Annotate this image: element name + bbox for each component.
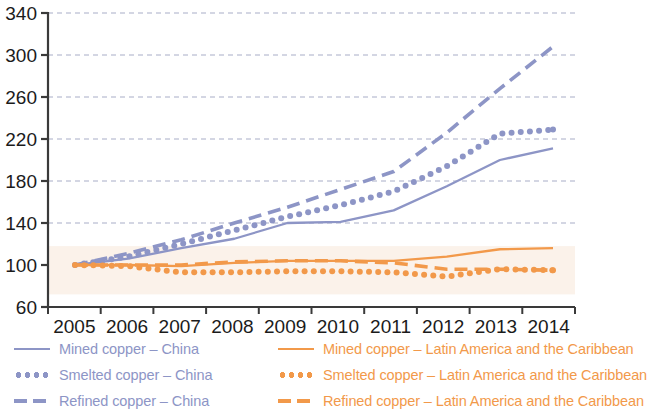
chart-plot-area: 60100140180220260300340 2005200620072008… bbox=[0, 0, 582, 334]
legend-item-refined-latam[interactable]: Refined copper – Latin America and the C… bbox=[268, 388, 582, 414]
legend-item-mined-latam[interactable]: Mined copper – Latin America and the Car… bbox=[268, 336, 582, 362]
x-tick-label: 2007 bbox=[159, 316, 201, 334]
legend-label: Smelted copper – China bbox=[59, 367, 212, 383]
x-tick-label: 2013 bbox=[475, 316, 517, 334]
x-tick-label: 2011 bbox=[370, 316, 411, 334]
y-tick-label: 260 bbox=[5, 87, 37, 108]
legend-item-mined-china[interactable]: Mined copper – China bbox=[0, 336, 268, 362]
legend-swatch-solid-icon bbox=[278, 342, 314, 356]
series-dashed bbox=[75, 47, 553, 265]
legend-label: Smelted copper – Latin America and the C… bbox=[323, 367, 647, 383]
legend-item-refined-china[interactable]: Refined copper – China bbox=[0, 388, 268, 414]
legend-label: Refined copper – China bbox=[59, 393, 209, 409]
legend-item-smelted-china[interactable]: Smelted copper – China bbox=[0, 362, 268, 388]
y-tick-label: 300 bbox=[5, 45, 37, 66]
legend-swatch-dotted-icon bbox=[14, 368, 50, 382]
legend-swatch-solid-icon bbox=[14, 342, 50, 356]
data-series bbox=[72, 47, 556, 280]
legend-item-smelted-latam[interactable]: Smelted copper – Latin America and the C… bbox=[268, 362, 582, 388]
legend-label: Refined copper – Latin America and the C… bbox=[323, 393, 644, 409]
chart-svg: 60100140180220260300340 2005200620072008… bbox=[0, 0, 582, 334]
y-tick-label: 180 bbox=[5, 171, 37, 192]
y-tick-label: 100 bbox=[5, 255, 37, 276]
x-tick-labels: 2005200620072008200920102011201220132014 bbox=[53, 316, 570, 334]
x-tick-label: 2008 bbox=[211, 316, 253, 334]
x-tick-label: 2014 bbox=[528, 316, 571, 334]
legend-label: Mined copper – Latin America and the Car… bbox=[323, 341, 634, 357]
y-tick-label: 340 bbox=[5, 3, 37, 24]
legend-label: Mined copper – China bbox=[59, 341, 199, 357]
x-tick-label: 2005 bbox=[53, 316, 95, 334]
legend-swatch-dotted-icon bbox=[278, 368, 314, 382]
x-tick-label: 2009 bbox=[264, 316, 306, 334]
y-tick-labels: 60100140180220260300340 bbox=[5, 3, 37, 318]
x-tick-label: 2012 bbox=[422, 316, 464, 334]
y-tick-label: 140 bbox=[5, 213, 37, 234]
x-tick-label: 2010 bbox=[317, 316, 359, 334]
x-tick-label: 2006 bbox=[106, 316, 148, 334]
legend-swatch-dashed-icon bbox=[14, 394, 50, 408]
legend-swatch-dashed-icon bbox=[278, 394, 314, 408]
chart-legend: Mined copper – China Mined copper – Lati… bbox=[0, 336, 582, 414]
y-tick-label: 60 bbox=[16, 297, 37, 318]
y-tick-label: 220 bbox=[5, 129, 37, 150]
